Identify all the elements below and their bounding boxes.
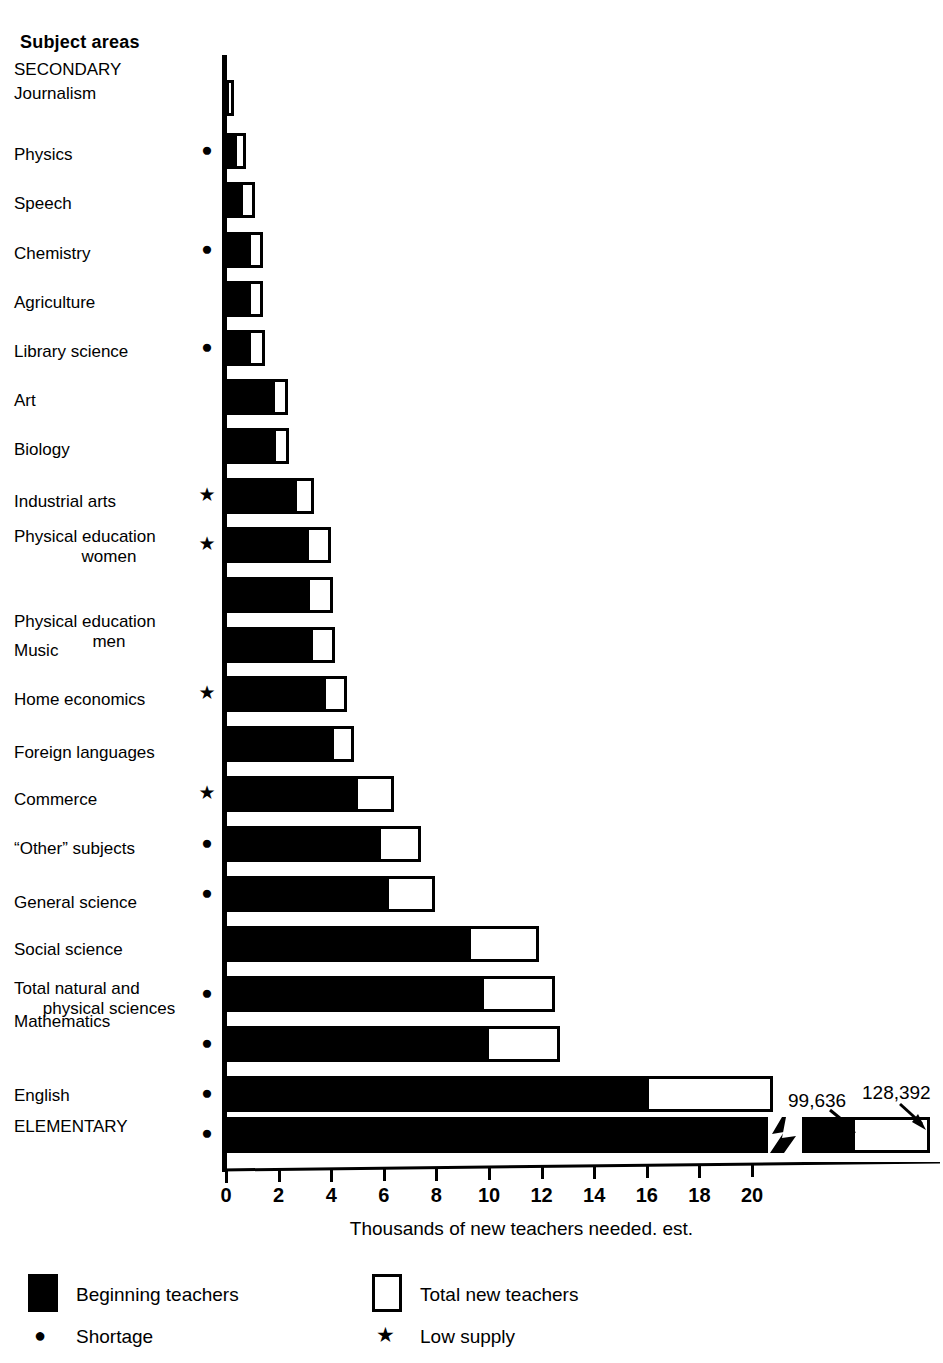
legend-swatch-beginning [28, 1274, 58, 1312]
row-label-15: Commerce [14, 790, 204, 810]
row-label-10: Physical educationwomen [14, 527, 204, 567]
bar-beginning-teachers [226, 676, 326, 712]
row-label-4: Chemistry [14, 244, 204, 264]
bar-beginning-teachers [226, 80, 227, 116]
page-title: Subject areas [20, 32, 140, 53]
row-label-22: ELEMENTARY [14, 1117, 204, 1137]
x-tick-label: 10 [478, 1184, 500, 1207]
bar-beginning-teachers [226, 232, 251, 268]
x-tick [488, 1167, 491, 1180]
bar-beginning-teachers [226, 876, 389, 912]
x-tick [383, 1168, 386, 1181]
shortage-dot-icon [196, 1083, 218, 1102]
teacher-shortage-bar-chart: Subject areas SECONDARYJournalismPhysics… [0, 0, 943, 1363]
shortage-dot-icon [196, 239, 218, 258]
shortage-dot-icon [196, 1123, 218, 1142]
bar-beginning-teachers [226, 1076, 649, 1112]
shortage-dot-icon [196, 337, 218, 356]
x-tick [698, 1165, 701, 1178]
bar-beginning-teachers [226, 627, 313, 663]
legend-label-total: Total new teachers [420, 1284, 578, 1306]
shortage-dot-icon [196, 983, 218, 1002]
bar-beginning-teachers [226, 926, 471, 962]
legend-swatch-total [372, 1274, 402, 1312]
row-label-21: English [14, 1086, 204, 1106]
bar-beginning-teachers [226, 182, 243, 218]
x-tick-label: 12 [530, 1184, 552, 1207]
row-label-0: SECONDARY [14, 60, 204, 80]
x-tick [593, 1166, 596, 1179]
bar-beginning-teachers [226, 826, 381, 862]
row-label-20: Mathematics [14, 1012, 204, 1032]
x-tick-label: 8 [431, 1184, 442, 1207]
x-tick-label: 6 [378, 1184, 389, 1207]
x-tick [435, 1168, 438, 1181]
x-tick [646, 1165, 649, 1178]
legend: Beginning teachers Total new teachers ● … [0, 1268, 943, 1363]
bar-beginning-teachers [226, 976, 484, 1012]
x-tick-label: 0 [220, 1184, 231, 1207]
row-label-line: Physical education [14, 612, 204, 632]
row-label-12: Music [14, 641, 204, 661]
row-label-16: “Other” subjects [14, 839, 204, 859]
x-tick [225, 1170, 228, 1183]
bar-beginning-teachers [226, 726, 334, 762]
row-label-13: Home economics [14, 690, 204, 710]
elementary-beginning-arrow [828, 1108, 864, 1136]
row-label-3: Speech [14, 194, 204, 214]
bar-beginning-teachers [226, 379, 275, 415]
legend-label-low-supply: Low supply [420, 1326, 515, 1348]
shortage-dot-icon [196, 140, 218, 159]
elementary-total-arrow [898, 1102, 934, 1134]
row-label-7: Art [14, 391, 204, 411]
low-supply-star-icon [196, 783, 218, 802]
shortage-dot-icon [196, 1033, 218, 1052]
elementary-total-callout: 128,392 [862, 1082, 931, 1104]
bar-beginning-teachers [226, 527, 309, 563]
bar-beginning-teachers [226, 776, 358, 812]
row-label-17: General science [14, 893, 204, 913]
legend-shortage-icon: ● [34, 1324, 46, 1347]
row-label-8: Biology [14, 440, 204, 460]
row-label-14: Foreign languages [14, 743, 204, 763]
bar-beginning-teachers [226, 133, 237, 169]
bar-beginning-teachers [226, 577, 310, 613]
x-tick-label: 14 [583, 1184, 605, 1207]
bar-beginning-teachers [226, 478, 297, 514]
x-tick [330, 1169, 333, 1182]
axis-break-marker [768, 1117, 802, 1153]
row-label-9: Industrial arts [14, 492, 204, 512]
row-label-5: Agriculture [14, 293, 204, 313]
low-supply-star-icon [196, 683, 218, 702]
x-tick [278, 1169, 281, 1182]
row-label-line: Physical education [14, 527, 204, 547]
legend-low-supply-icon: ★ [376, 1323, 395, 1347]
x-tick-label: 16 [636, 1184, 658, 1207]
row-label-18: Social science [14, 940, 204, 960]
row-label-line: Total natural and [14, 979, 204, 999]
x-tick-label: 2 [273, 1184, 284, 1207]
x-tick-label: 20 [741, 1184, 763, 1207]
x-tick-label: 4 [326, 1184, 337, 1207]
bar-beginning-teachers [226, 1117, 855, 1153]
bar-beginning-teachers [226, 330, 251, 366]
bar-beginning-teachers [226, 1026, 489, 1062]
row-label-1: Journalism [14, 84, 204, 104]
row-label-line: women [14, 547, 204, 567]
legend-label-beginning: Beginning teachers [76, 1284, 239, 1306]
legend-label-shortage: Shortage [76, 1326, 153, 1348]
shortage-dot-icon [196, 883, 218, 902]
low-supply-star-icon [196, 534, 218, 553]
bar-beginning-teachers [226, 281, 251, 317]
low-supply-star-icon [196, 485, 218, 504]
x-axis-title: Thousands of new teachers needed. est. [0, 1218, 943, 1240]
x-tick-label: 18 [688, 1184, 710, 1207]
bar-beginning-teachers [226, 428, 276, 464]
shortage-dot-icon [196, 833, 218, 852]
row-label-2: Physics [14, 145, 204, 165]
x-tick [751, 1164, 754, 1177]
row-label-6: Library science [14, 342, 204, 362]
x-tick [541, 1166, 544, 1179]
